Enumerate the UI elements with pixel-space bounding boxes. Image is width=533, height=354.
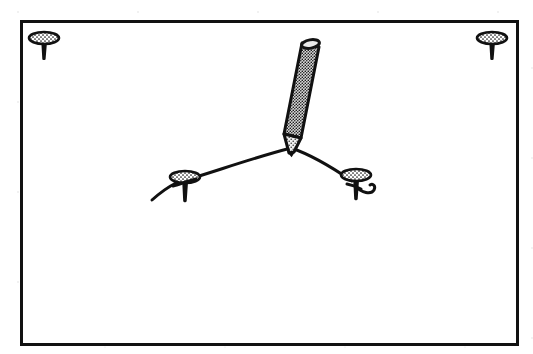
board-frame <box>22 22 518 345</box>
figure-canvas: Ellipse construction with string, two ta… <box>0 0 533 354</box>
tack-head <box>477 32 507 44</box>
tack-head <box>341 169 371 181</box>
line-drawing-svg <box>0 0 533 354</box>
tack-head <box>29 32 59 44</box>
